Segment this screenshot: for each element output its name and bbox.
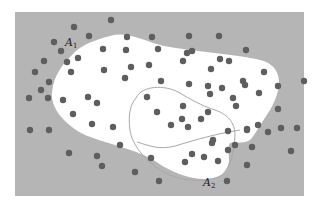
data-point xyxy=(224,178,230,184)
data-point xyxy=(70,111,76,117)
data-point xyxy=(186,33,192,39)
data-point xyxy=(156,178,162,184)
set-diagram: A1 A2 xyxy=(0,0,318,211)
data-point xyxy=(41,58,47,64)
data-point xyxy=(85,94,91,100)
data-point xyxy=(117,142,123,148)
data-point xyxy=(94,100,100,106)
data-point xyxy=(46,127,52,133)
data-point xyxy=(46,79,52,85)
data-point xyxy=(288,148,294,154)
data-point xyxy=(265,129,271,135)
data-point xyxy=(100,46,106,52)
data-point xyxy=(148,155,154,161)
data-point xyxy=(101,67,107,73)
data-point xyxy=(244,126,250,132)
data-point xyxy=(122,75,128,81)
data-point xyxy=(51,39,57,45)
data-point xyxy=(216,33,222,39)
data-point xyxy=(205,83,211,89)
data-point xyxy=(242,82,248,88)
data-point xyxy=(215,158,221,164)
data-point xyxy=(226,58,232,64)
data-point xyxy=(32,69,38,75)
data-point xyxy=(217,56,223,62)
data-point xyxy=(26,95,32,101)
data-point xyxy=(256,90,262,96)
data-point xyxy=(225,147,231,153)
data-point xyxy=(205,109,211,115)
data-point xyxy=(110,124,116,130)
data-point xyxy=(155,46,161,52)
data-point xyxy=(225,128,231,134)
data-point xyxy=(66,150,72,156)
data-point xyxy=(158,78,164,84)
data-point xyxy=(233,103,239,109)
data-point xyxy=(209,140,215,146)
data-point xyxy=(128,64,134,70)
data-point xyxy=(86,33,92,39)
data-point xyxy=(243,47,249,53)
data-point xyxy=(294,125,300,131)
data-point xyxy=(278,125,284,131)
data-point xyxy=(275,106,281,112)
data-point xyxy=(179,116,185,122)
data-point xyxy=(261,69,267,75)
data-point xyxy=(244,162,250,168)
data-point xyxy=(180,58,186,64)
data-point xyxy=(60,97,66,103)
data-point xyxy=(185,124,191,130)
data-point xyxy=(45,95,51,101)
data-point xyxy=(249,144,255,150)
data-point xyxy=(207,91,213,97)
data-point xyxy=(301,78,307,84)
data-point xyxy=(186,81,192,87)
data-point xyxy=(180,103,186,109)
data-point xyxy=(255,122,261,128)
data-point xyxy=(230,95,236,101)
data-point xyxy=(75,55,81,61)
data-point xyxy=(189,151,195,157)
data-point xyxy=(108,17,114,23)
data-point xyxy=(71,24,77,30)
data-point xyxy=(58,48,64,54)
data-point xyxy=(275,83,281,89)
data-point xyxy=(154,109,160,115)
data-point xyxy=(149,34,155,40)
data-point xyxy=(168,122,174,128)
data-point xyxy=(68,69,74,75)
data-point xyxy=(38,87,44,93)
data-point xyxy=(189,48,195,54)
data-point xyxy=(146,62,152,68)
data-point xyxy=(27,127,33,133)
data-point xyxy=(198,116,204,122)
data-point xyxy=(123,47,129,53)
data-point xyxy=(64,59,70,65)
data-point xyxy=(99,163,105,169)
data-point xyxy=(232,142,238,148)
data-point xyxy=(132,169,138,175)
data-point xyxy=(208,66,214,72)
data-point xyxy=(94,153,100,159)
data-point xyxy=(124,34,130,40)
data-point xyxy=(182,159,188,165)
data-point xyxy=(144,94,150,100)
data-point xyxy=(89,121,95,127)
data-point xyxy=(201,154,207,160)
data-point xyxy=(219,85,225,91)
